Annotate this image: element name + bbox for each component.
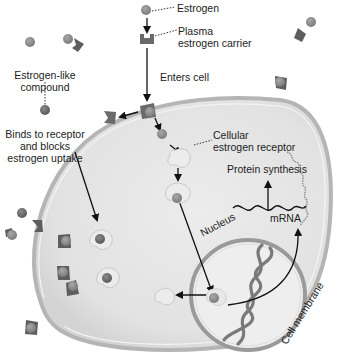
diagram-canvas bbox=[0, 0, 345, 357]
label-carrier-line1: Plasma bbox=[178, 25, 213, 37]
label-binds-line1: Binds to receptor bbox=[0, 128, 90, 140]
estrogen-molecule bbox=[141, 5, 151, 15]
label-estrogen-like-line2: compound bbox=[0, 81, 90, 93]
label-estrogen: Estrogen bbox=[177, 2, 219, 14]
label-estrogen-like-line1: Estrogen-like bbox=[0, 69, 90, 81]
label-mrna: mRNA bbox=[270, 212, 301, 224]
label-cellular-line1: Cellular bbox=[213, 129, 249, 141]
label-binds-line3: estrogen uptake bbox=[0, 152, 90, 164]
label-binds-line2: and blocks bbox=[0, 140, 90, 152]
label-cellular-line2: estrogen receptor bbox=[213, 141, 295, 153]
label-enters-cell: Enters cell bbox=[160, 71, 209, 83]
plasma-carrier bbox=[140, 34, 154, 44]
label-protein-synthesis: Protein synthesis bbox=[227, 163, 307, 175]
label-carrier-line2: estrogen carrier bbox=[178, 37, 252, 49]
